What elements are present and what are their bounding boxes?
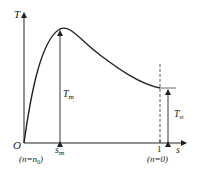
peak-torque-label: Tm [63, 88, 75, 101]
starting-torque-label: Tst [174, 108, 184, 120]
origin-condition-label: (n=n0) [19, 154, 43, 165]
unit-slip-label: 1 [157, 144, 162, 154]
torque-slip-diagram: T s O (n=n0) Tm sm Tst 1 (n=0) [0, 0, 199, 170]
x-axis-label: s [176, 144, 180, 155]
peak-slip-label: sm [55, 144, 65, 157]
origin-label: O [13, 139, 21, 151]
y-axis-label: T [14, 8, 21, 20]
unit-slip-condition-label: (n=0) [147, 154, 168, 164]
torque-curve [24, 28, 160, 143]
